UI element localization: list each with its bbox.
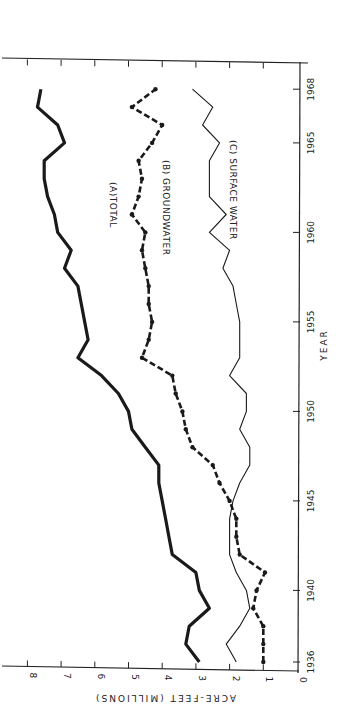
series-groundwater-line [132,89,265,662]
groundwater-point [140,356,144,360]
groundwater-point [147,284,151,288]
groundwater-point [143,230,147,234]
groundwater-point [136,159,140,163]
series-label-surface-water: (C) SURFACE WATER [228,140,238,240]
value-tick-label: 1 [264,676,274,682]
axes: 1936194019451950195519601965196801234567… [2,58,316,683]
year-tick-label: 1940 [306,579,316,602]
value-tick-label: 2 [231,676,241,682]
series-label-total: (A)TOTAL [108,182,118,228]
groundwater-point [147,302,151,306]
groundwater-point [147,338,151,342]
year-tick-label: 1945 [306,489,316,512]
value-tick-label: 7 [62,673,72,679]
groundwater-point [130,105,134,109]
groundwater-point [140,177,144,181]
series-surface-water-line [193,89,250,662]
value-tick-label: 6 [96,674,106,680]
groundwater-point [261,660,265,664]
groundwater-point [263,570,267,574]
year-tick-label: 1950 [306,400,316,423]
year-tick-label: 1968 [306,77,316,100]
groundwater-point [217,481,221,485]
groundwater-point [130,212,134,216]
groundwater-point [184,427,188,431]
value-tick-label: 3 [197,675,207,681]
groundwater-point [234,517,238,521]
groundwater-point [143,266,147,270]
groundwater-point [227,499,231,503]
groundwater-point [251,606,255,610]
groundwater-point [136,194,140,198]
value-tick-label: 5 [130,674,140,680]
groundwater-point [173,391,177,395]
y-axis-title: ACRE-FEET (MILLIONS) [94,693,236,703]
water-use-chart: 1936194019451950195519601965196801234567… [0,0,341,711]
value-tick-label: 8 [28,672,38,678]
year-axis [298,62,300,673]
groundwater-point [211,463,215,467]
groundwater-point [170,373,174,377]
groundwater-point [160,123,164,127]
groundwater-point [150,320,154,324]
groundwater-point [190,445,194,449]
year-tick-label: 1936 [306,650,316,673]
groundwater-point [153,87,157,91]
groundwater-point [234,535,238,539]
groundwater-point [254,588,258,592]
groundwater-point [238,552,242,556]
groundwater-point [140,248,144,252]
year-tick-label: 1965 [306,131,316,154]
groundwater-point [261,642,265,646]
groundwater-point [150,141,154,145]
top-frame [2,58,308,63]
groundwater-point [180,409,184,413]
series-label-groundwater: (B) GROUNDWATER [161,160,171,255]
groundwater-point [261,624,265,628]
value-tick-label: 4 [163,675,173,681]
year-tick-label: 1960 [306,221,316,244]
series-total-line [38,89,210,662]
value-axis [2,666,299,671]
year-tick-label: 1955 [306,310,316,333]
value-tick-label: 0 [298,677,308,683]
x-axis-title: YEAR [319,329,329,362]
